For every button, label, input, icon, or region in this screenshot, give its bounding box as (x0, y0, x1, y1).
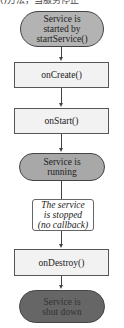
arrow-head-icon (59, 148, 63, 152)
arrow-head-icon (59, 285, 63, 289)
node-ondestroy: onDestroy() (14, 249, 109, 276)
edge-line (61, 88, 62, 103)
node-service-running: Service is running (19, 153, 105, 181)
node-service-shut-down: Service is shut down (19, 290, 105, 323)
edge-line (61, 134, 62, 148)
node-onstart: onStart() (14, 108, 109, 134)
cropped-header-text: ()方法，当服务停止 (0, 0, 124, 5)
arrow-head-icon (59, 244, 63, 248)
edge-line (61, 47, 62, 57)
arrow-head-icon (59, 57, 63, 61)
edge-line (61, 231, 62, 244)
arrow-head-icon (59, 103, 63, 107)
node-label: onStart() (45, 116, 79, 126)
node-service-stopped: The service is stopped (no callback) (32, 199, 94, 231)
node-label: onDestroy() (39, 258, 85, 268)
node-label: onCreate() (41, 70, 82, 80)
node-label: Service is running (43, 157, 80, 177)
node-label: Service is shut down (42, 297, 81, 317)
node-label: Service is started by startService() (36, 14, 87, 44)
node-service-started: Service is started by startService() (20, 11, 104, 47)
node-label: The service is stopped (no callback) (38, 200, 88, 230)
node-oncreate: onCreate() (14, 62, 109, 88)
edge-line (61, 181, 62, 199)
